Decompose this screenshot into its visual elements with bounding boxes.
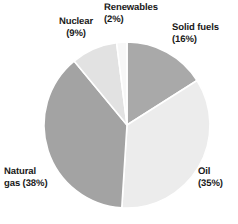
pie-label-natural-gas: Natural gas (38%) — [4, 166, 76, 189]
pie-label-solid-fuels: Solid fuels (16%) — [172, 22, 238, 45]
pie-label-renewables: Renewables (2%) — [104, 2, 174, 25]
pie-label-nuclear: Nuclear (9%) — [44, 16, 108, 39]
pie-chart-figure: Renewables (2%) Nuclear (9%) Solid fuels… — [0, 0, 238, 224]
pie-label-oil: Oil (35%) — [198, 166, 238, 189]
